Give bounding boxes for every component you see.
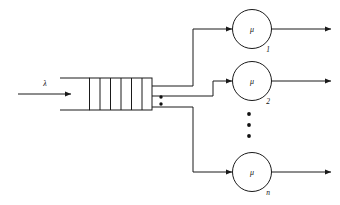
- server-n-rate-label: μ: [249, 168, 254, 177]
- server-1-rate-label: μ: [249, 25, 254, 34]
- server-2-rate-label: μ: [249, 77, 254, 86]
- server-1: μ 1: [233, 10, 332, 55]
- server-n-index-label: n: [266, 188, 270, 197]
- server-2: μ 2: [233, 62, 332, 107]
- arrival-rate-label: λ: [42, 79, 47, 88]
- branch-to-server-1: [152, 29, 232, 86]
- server-1-index-label: 1: [266, 45, 270, 54]
- branch-to-server-2: [152, 81, 232, 96]
- queue-box: [90, 78, 153, 110]
- diagram-canvas: λ: [0, 0, 340, 205]
- server-ellipsis-icon: [247, 112, 251, 138]
- queue-branch-ellipsis-icon: [159, 95, 162, 105]
- server-n: μ n: [233, 153, 332, 198]
- queueing-diagram: λ: [0, 0, 340, 205]
- branch-to-server-n: [152, 107, 232, 172]
- server-2-index-label: 2: [266, 97, 270, 106]
